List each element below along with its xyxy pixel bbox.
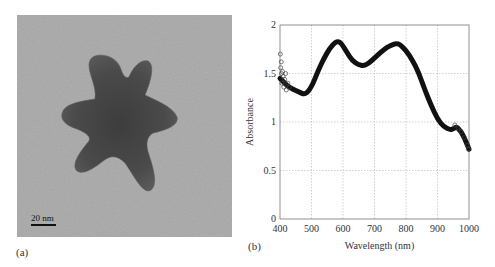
scale-bar-label: 20 nm: [31, 213, 54, 223]
x-tick-label: 900: [430, 223, 445, 234]
x-tick-label: 1000: [459, 223, 479, 234]
tem-image: [17, 15, 232, 237]
y-tick-label: 1.5: [264, 68, 277, 79]
x-tick-label: 700: [367, 223, 382, 234]
y-axis-label: Absorbance: [244, 98, 255, 146]
x-axis-label: Wavelength (nm): [345, 240, 414, 252]
panel-b: 400500600700800900100000.511.52Wavelengt…: [240, 0, 495, 267]
panel-a: 20 nm (a): [0, 0, 240, 267]
x-tick-label: 400: [273, 223, 288, 234]
y-tick-label: 0.5: [264, 165, 277, 176]
x-tick-label: 500: [304, 223, 319, 234]
panel-label-b: (b): [248, 240, 261, 252]
x-tick-label: 600: [336, 223, 351, 234]
y-tick-label: 2: [271, 19, 276, 30]
y-tick-label: 1: [271, 116, 276, 127]
panel-label-a: (a): [16, 246, 28, 258]
x-tick-label: 800: [399, 223, 414, 234]
data-marker: [279, 66, 283, 70]
y-tick-label: 0: [271, 213, 276, 224]
absorbance-chart: 400500600700800900100000.511.52Wavelengt…: [240, 0, 495, 267]
scale-bar: [31, 224, 56, 226]
